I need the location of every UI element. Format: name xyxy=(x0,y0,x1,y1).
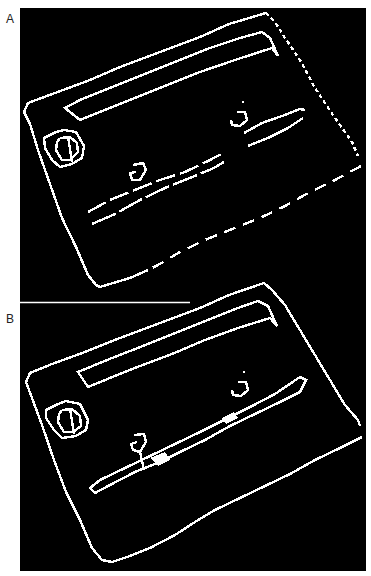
black-field xyxy=(20,8,366,571)
marker-dot-a xyxy=(242,101,244,103)
figure-canvas xyxy=(0,0,371,576)
marker-dot-b xyxy=(243,371,245,373)
